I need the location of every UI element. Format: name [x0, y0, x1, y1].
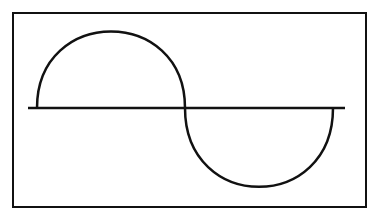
positive-half-wave	[37, 32, 185, 109]
frame-border	[13, 13, 366, 207]
negative-half-wave	[185, 108, 333, 187]
sine-wave-diagram	[0, 0, 379, 217]
